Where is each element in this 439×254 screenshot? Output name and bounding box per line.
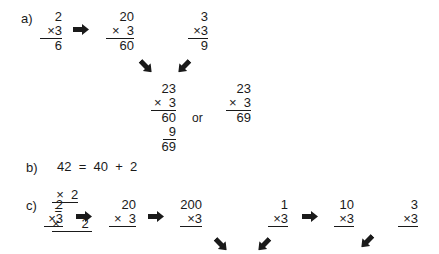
arrow-right-icon [73,24,89,35]
part-a-label: a) [21,11,33,26]
arrow-down-left-icon [174,57,193,76]
multiplier: ×3 [334,212,354,227]
product: 69 [226,111,251,125]
partial-product: 60 [151,111,176,125]
part-c-p4: 1 ×3 [268,198,288,227]
multiplicand: 20 [109,198,136,212]
multiplicand: 3 [398,198,418,212]
product: 69 [151,140,176,154]
multiplier: × 3 [151,96,176,111]
multiplier: ×3 [180,212,202,227]
multiplicand: 23 [226,82,251,96]
arrow-down-right-icon [136,57,155,76]
part-a-combined-long: 23 × 3 60 9 69 [151,82,176,154]
multiplier: × 3 [106,24,134,39]
arrow-down-left-icon [254,235,273,254]
multiplicand: 2 [40,10,62,24]
product: 60 [106,39,134,53]
multiplicand: 1 [268,198,288,212]
part-a-combined-short: 23 × 3 69 [226,82,251,125]
part-c-p6: 3 ×3 [398,198,418,227]
part-a-step1: 2 ×3 6 [40,10,62,53]
or-text: or [192,111,203,125]
arrow-down-right-icon [211,235,230,254]
multiplier: ×3 [188,24,208,39]
multiplicand: 200 [180,198,202,212]
product: 6 [40,39,62,53]
part-c-p2: 20 × 3 [109,198,136,227]
part-b-label: b) [26,160,38,175]
multiplier: ×3 [268,212,288,227]
arrow-right-icon [302,211,318,222]
arrow-right-icon [76,211,92,222]
arrow-down-left-icon [357,232,376,251]
product: 9 [188,39,208,53]
multiplier: ×3 [40,24,62,39]
part-a-step2: 20 × 3 60 [106,10,134,53]
multiplicand: 10 [334,198,354,212]
multiplier: ×3 [44,212,63,227]
part-c-p1: 2 ×3 [44,198,63,227]
multiplicand: 23 [151,82,176,96]
part-c-p3: 200 ×3 [180,198,202,227]
part-b-line1: 42 = 40 + 2 [57,160,137,174]
multiplicand: 2 [44,198,63,212]
part-c-label: c) [26,198,37,213]
part-c-p5: 10 ×3 [334,198,354,227]
arrow-right-icon [148,211,164,222]
partial-product: 9 [163,125,176,140]
multiplicand: 20 [106,10,134,24]
multiplier: ×3 [398,212,418,227]
multiplicand: 3 [188,10,208,24]
multiplier: × 3 [109,212,136,227]
part-a-step3: 3 ×3 9 [188,10,208,53]
multiplier: × 3 [226,96,251,111]
